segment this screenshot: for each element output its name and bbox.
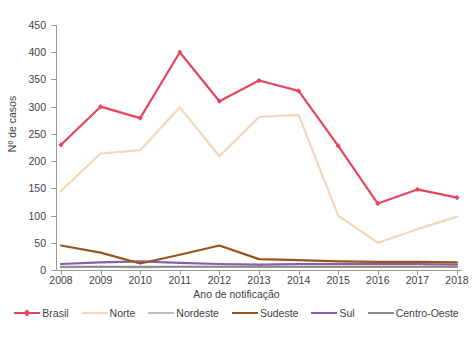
- legend-swatch-icon: [148, 308, 174, 318]
- x-tick-label: 2016: [366, 274, 389, 286]
- legend-swatch-icon: [368, 308, 394, 318]
- legend-item-sul[interactable]: Sul: [311, 307, 354, 319]
- legend-swatch-icon: [232, 308, 258, 318]
- data-point-marker: [454, 195, 459, 200]
- data-point-marker: [415, 187, 420, 192]
- y-tick-label: 450: [28, 20, 46, 30]
- y-tick-label: 350: [28, 74, 46, 84]
- series-line: [61, 107, 457, 243]
- y-tick-label: 100: [28, 211, 46, 221]
- legend-label: Sul: [339, 307, 354, 319]
- legend-item-brasil[interactable]: Brasil: [14, 307, 68, 319]
- y-tick-label: 200: [28, 156, 46, 166]
- chart-figure: 050100150200250300350400450 Nº de casos …: [0, 0, 473, 338]
- plot-area: [57, 25, 461, 270]
- x-tick-label: 2010: [129, 274, 152, 286]
- legend-item-nordeste[interactable]: Nordeste: [148, 307, 219, 319]
- x-tick-label: 2012: [208, 274, 231, 286]
- x-tick-mark: [457, 270, 458, 275]
- x-tick-mark: [140, 270, 141, 275]
- chart-legend: BrasilNorteNordesteSudesteSulCentro-Oest…: [0, 307, 473, 319]
- legend-swatch-icon: [82, 308, 108, 318]
- x-tick-mark: [101, 270, 102, 275]
- x-tick-mark: [219, 270, 220, 275]
- legend-label: Nordeste: [176, 307, 219, 319]
- x-tick-label: 2009: [89, 274, 112, 286]
- legend-item-centro-oeste[interactable]: Centro-Oeste: [368, 307, 459, 319]
- y-axis-title: Nº de casos: [6, 64, 18, 184]
- legend-item-sudeste[interactable]: Sudeste: [232, 307, 299, 319]
- legend-label: Norte: [110, 307, 136, 319]
- x-tick-label: 2008: [49, 274, 72, 286]
- y-tick-label: 400: [28, 47, 46, 57]
- series-line: [61, 52, 457, 203]
- legend-label: Brasil: [42, 307, 68, 319]
- x-tick-mark: [338, 270, 339, 275]
- x-tick-mark: [299, 270, 300, 275]
- x-tick-label: 2011: [169, 274, 192, 286]
- series-lines: [57, 25, 461, 270]
- legend-swatch-icon: [14, 308, 40, 318]
- x-tick-mark: [417, 270, 418, 275]
- x-tick-label: 2013: [247, 274, 270, 286]
- legend-label: Centro-Oeste: [396, 307, 459, 319]
- x-tick-label: 2018: [445, 274, 468, 286]
- y-tick-label: 150: [28, 183, 46, 193]
- x-tick-mark: [378, 270, 379, 275]
- x-tick-mark: [259, 270, 260, 275]
- x-tick-label: 2015: [327, 274, 350, 286]
- y-tick-label: 250: [28, 129, 46, 139]
- x-axis-title: Ano de notificação: [0, 288, 473, 300]
- y-tick-label: 0: [40, 265, 46, 275]
- legend-swatch-icon: [311, 308, 337, 318]
- x-tick-mark: [61, 270, 62, 275]
- x-tick-label: 2014: [287, 274, 310, 286]
- y-tick-label: 50: [34, 238, 46, 248]
- legend-label: Sudeste: [260, 307, 299, 319]
- x-tick-mark: [180, 270, 181, 275]
- legend-item-norte[interactable]: Norte: [82, 307, 136, 319]
- x-tick-label: 2017: [406, 274, 429, 286]
- y-tick-label: 300: [28, 102, 46, 112]
